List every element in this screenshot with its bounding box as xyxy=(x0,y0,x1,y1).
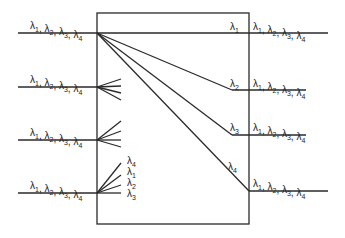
output-label-2: λ1, λ2, λ3, λ4 xyxy=(253,78,305,100)
inner-label-1: λ1 xyxy=(230,21,239,34)
output-label-1: λ1, λ2, λ3, λ4 xyxy=(253,21,305,43)
input-label-2: λ1, λ2, λ3, λ4 xyxy=(30,74,82,96)
route-lambda4 xyxy=(97,33,249,191)
route-lambda2 xyxy=(97,33,232,90)
route-lambda3 xyxy=(97,33,232,135)
input-label-1: λ1, λ2, λ3, λ4 xyxy=(30,20,82,42)
fanout-port-2 xyxy=(97,79,121,100)
fanout-port-4 xyxy=(97,163,121,193)
fanout-port-3 xyxy=(97,121,121,147)
inner-label-4: λ4 xyxy=(228,161,237,174)
wavelength-router-diagram: λ1, λ2, λ3, λ4 λ1, λ2, λ3, λ4 λ1, λ2, λ3… xyxy=(0,0,345,238)
output-label-4: λ1, λ2, λ3, λ4 xyxy=(253,178,305,200)
output-label-3: λ1, λ2, λ3, λ4 xyxy=(253,122,305,144)
input-label-3: λ1, λ2, λ3, λ4 xyxy=(30,127,82,149)
input-label-4: λ1, λ2, λ3, λ4 xyxy=(30,180,82,202)
inner-label-3: λ3 xyxy=(230,122,239,135)
